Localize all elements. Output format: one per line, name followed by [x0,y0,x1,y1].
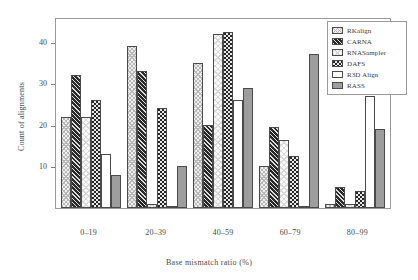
legend-item: RNASampler [332,47,402,58]
x-tick-label: 60–79 [259,228,321,242]
legend-label: RKalign [347,27,371,35]
legend-swatch-icon [332,27,343,34]
legend-item: RKalign [332,25,402,36]
bar [289,156,299,208]
bar [365,96,375,208]
bar [309,54,319,208]
legend-swatch-icon [332,82,343,89]
x-tick-label: 80–99 [326,228,388,242]
legend-label: R3D Align [347,71,378,79]
bar [213,34,223,208]
bar [345,204,355,208]
legend-swatch-icon [332,60,343,67]
bar [91,100,101,208]
bar [111,175,121,208]
bar [157,108,167,208]
bar [203,125,213,208]
legend-item: RASS [332,80,402,91]
y-tick-label: 10 [20,162,47,171]
bar [71,75,81,208]
bar [127,46,137,208]
bar [299,206,309,208]
bar-group [127,19,187,208]
legend-label: CARNA [347,38,372,46]
y-tick-label: 20 [20,121,47,130]
bar-group [61,19,121,208]
bar-group [259,19,319,208]
legend-swatch-icon [332,71,343,78]
x-tick-label: 40–59 [192,228,254,242]
y-tick-mark [51,126,55,127]
x-tick-label: 0–19 [58,228,120,242]
legend-item: DAFS [332,58,402,69]
bar [101,154,111,208]
y-tick-mark [51,84,55,85]
bar-chart: Count of alignments 0–1920–3940–5960–798… [0,0,418,280]
bar [147,204,157,208]
bar [167,206,177,208]
bar [335,187,345,208]
x-axis-title: Base mismatch ratio (%) [0,258,418,267]
x-axis-ticks: 0–1920–3940–5960–7980–99 [55,228,391,242]
bar-group [193,19,253,208]
y-tick-label: 30 [20,79,47,88]
legend: RKalignCARNARNASamplerDAFSR3D AlignRASS [327,21,407,95]
bar [223,32,233,208]
legend-label: RNASampler [347,49,386,57]
legend-item: CARNA [332,36,402,47]
y-tick-mark [51,43,55,44]
bar [259,166,269,208]
bar [325,204,335,208]
bar [81,117,91,208]
y-tick-mark [51,167,55,168]
bar [279,140,289,209]
legend-swatch-icon [332,38,343,45]
legend-swatch-icon [332,49,343,56]
bar [243,88,253,208]
bar [233,100,243,208]
bar [375,129,385,208]
legend-label: RASS [347,82,365,90]
bar [137,71,147,208]
bar [355,191,365,208]
bar [177,166,187,208]
legend-label: DAFS [347,60,365,68]
legend-item: R3D Align [332,69,402,80]
y-tick-label: 40 [20,38,47,47]
bar [269,127,279,208]
bar [193,63,203,208]
bar [61,117,71,208]
x-tick-label: 20–39 [125,228,187,242]
